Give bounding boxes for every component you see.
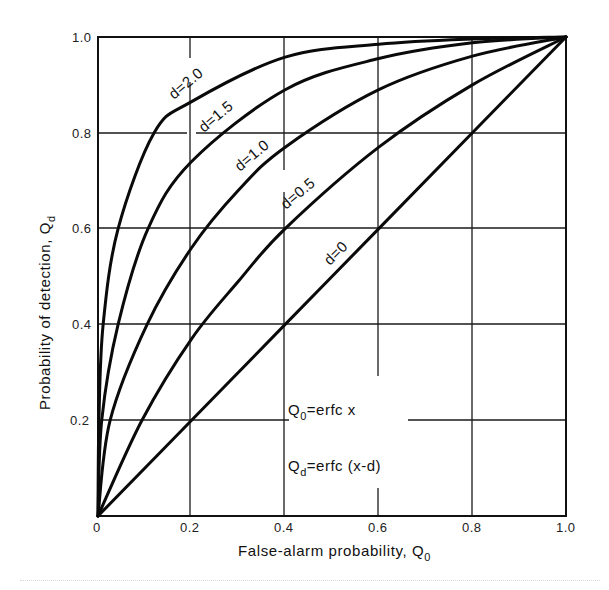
curve-labels: d=2.0 d=1.5 d=1.0 d=0.5 d=0 — [165, 64, 351, 268]
curve-label-d1: d=1.0 — [231, 136, 272, 174]
x-tick: 0.8 — [462, 520, 482, 535]
roc-chart: d=2.0 d=1.5 d=1.0 d=0.5 d=0 Q0=erfc x Qd… — [0, 0, 609, 590]
y-tick: 0.6 — [72, 221, 92, 236]
x-tick: 0.4 — [274, 520, 294, 535]
x-axis-ticks: 0 0.2 0.4 0.6 0.8 1.0 — [93, 520, 576, 535]
curve-label-d1.5: d=1.5 — [195, 97, 236, 135]
curves — [98, 37, 566, 516]
cropped-caption-remnant — [20, 580, 600, 587]
roc-curve-d-0 — [98, 37, 566, 516]
formula-annotations: Q0=erfc x Qd=erfc (x-d) — [288, 401, 381, 478]
y-axis-ticks: 0.2 0.4 0.6 0.8 1.0 — [70, 30, 92, 428]
x-tick: 0.2 — [180, 520, 200, 535]
formula-qd: Qd=erfc (x-d) — [288, 457, 381, 478]
x-tick: 0 — [93, 520, 101, 535]
y-tick: 0.2 — [70, 413, 90, 428]
formula-q0: Q0=erfc x — [288, 401, 356, 422]
y-tick: 1.0 — [72, 30, 92, 45]
y-axis-title: Probability of detection, Qd — [36, 215, 57, 410]
y-tick: 0.4 — [72, 317, 92, 332]
x-tick: 0.6 — [368, 520, 388, 535]
y-tick: 0.8 — [72, 126, 92, 141]
x-axis-title: False-alarm probability, Q0 — [238, 542, 431, 563]
x-tick: 1.0 — [556, 520, 576, 535]
curve-label-d0.5: d=0.5 — [277, 174, 318, 212]
